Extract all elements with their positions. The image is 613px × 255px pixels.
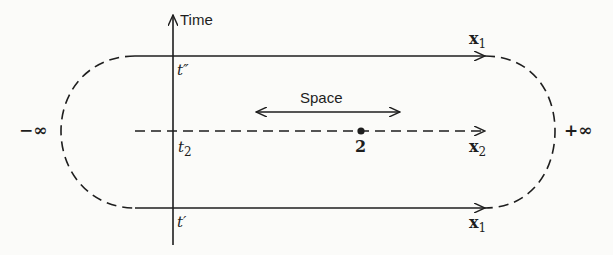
- middle-x2-subscript: 2: [479, 145, 487, 159]
- bottom-x1-main: x: [469, 213, 479, 232]
- t-prime-label: t′: [177, 213, 187, 231]
- minus-infinity-label: −∞: [19, 120, 47, 140]
- t-2-subscript: 2: [184, 145, 192, 159]
- top-x1-subscript: 1: [479, 37, 487, 51]
- point-2-label: 2: [355, 137, 366, 156]
- bottom-x1-label: x1: [469, 213, 486, 235]
- middle-x2-label: x2: [469, 137, 486, 159]
- top-x1-label: x1: [469, 29, 486, 51]
- point-2-dot: [357, 127, 364, 134]
- time-axis-label: Time: [180, 11, 213, 28]
- plus-infinity-label: +∞: [564, 120, 592, 140]
- left-closing-arc: [61, 56, 135, 208]
- feynman-path-diagram: Time Space 2 t″ t2 t′ x1 x2 x1 −∞ +∞: [0, 0, 613, 255]
- t-double-prime-label: t″: [177, 61, 189, 79]
- bottom-x1-subscript: 1: [479, 221, 487, 235]
- t-2-label: t2: [178, 138, 192, 159]
- right-closing-arc: [485, 56, 555, 208]
- middle-x2-main: x: [469, 137, 479, 156]
- top-x1-main: x: [469, 29, 479, 48]
- space-label: Space: [300, 89, 343, 106]
